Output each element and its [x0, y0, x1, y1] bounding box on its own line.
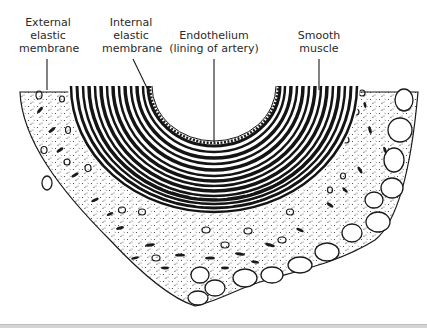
- label-line: Endothelium: [164, 29, 264, 42]
- label-line: Internal: [102, 16, 160, 29]
- label-line: membrane: [19, 42, 77, 55]
- label-external-elastic-membrane: External elastic membrane: [19, 16, 77, 55]
- label-endothelium: Endothelium (lining of artery): [164, 29, 264, 55]
- label-line: membrane: [102, 42, 160, 55]
- pointer-internal-elastic-membrane: [133, 59, 148, 90]
- label-line: External: [19, 16, 77, 29]
- artery-diagram: External elastic membrane Internal elast…: [0, 0, 427, 328]
- label-line: (lining of artery): [164, 42, 264, 55]
- label-internal-elastic-membrane: Internal elastic membrane: [102, 16, 160, 55]
- label-line: Smooth: [292, 29, 346, 42]
- label-line: elastic: [19, 29, 77, 42]
- label-line: muscle: [292, 42, 346, 55]
- label-line: elastic: [102, 29, 160, 42]
- bottom-border-strip: [0, 324, 427, 328]
- label-smooth-muscle: Smooth muscle: [292, 29, 346, 55]
